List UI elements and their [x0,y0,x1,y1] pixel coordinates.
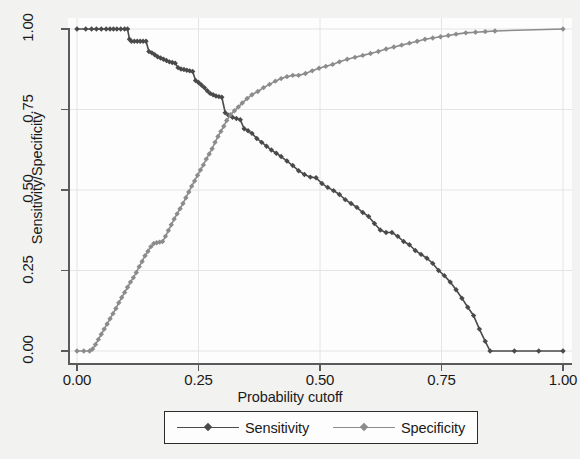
x-tick-label: 0.75 [412,371,472,388]
y-tick [61,270,68,272]
legend-label-specificity: Specificity [401,420,465,436]
x-tick [76,364,78,371]
y-axis-line [68,28,70,364]
x-tick-label: 0.25 [169,371,229,388]
x-tick-label: 1.00 [533,371,580,388]
y-tick [61,109,68,111]
legend-entry-sensitivity[interactable]: Sensitivity [177,420,309,436]
chart-legend: Sensitivity Specificity [164,411,478,444]
x-tick [319,364,321,371]
y-tick [61,28,68,30]
chart-figure: 1.000.750.500.250.00 0.000.250.500.751.0… [0,0,580,459]
x-tick-label: 0.00 [47,371,107,388]
y-tick [61,350,68,352]
x-tick [562,364,564,371]
legend-key-sensitivity [177,422,239,434]
legend-key-specificity [333,422,395,434]
x-tick [441,364,443,371]
y-axis-title: Sensitivity/Specificity [29,78,45,278]
y-tick [61,189,68,191]
legend-label-sensitivity: Sensitivity [245,420,309,436]
x-tick [198,364,200,371]
y-tick-label: 0.00 [19,322,36,378]
x-tick-label: 0.50 [290,371,350,388]
plot-canvas [68,18,572,364]
x-axis-title: Probability cutoff [0,389,580,405]
y-tick-label: 1.00 [19,0,36,56]
plot-area [68,18,572,364]
legend-entry-specificity[interactable]: Specificity [333,420,465,436]
